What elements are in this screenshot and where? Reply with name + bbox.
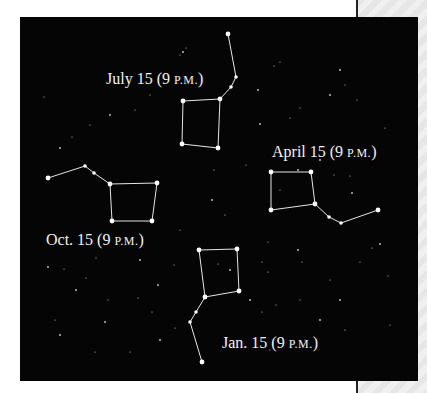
constellation-line-oct (48, 166, 85, 178)
background-star-icon (297, 249, 299, 251)
constellation-line-jan (199, 250, 205, 297)
background-star-icon (333, 174, 334, 175)
background-star-icon (134, 109, 135, 110)
background-star-icon (289, 117, 290, 118)
background-star-icon (85, 277, 86, 278)
label-date: April 15 (272, 143, 326, 160)
background-star-icon (224, 214, 225, 215)
background-star-icon (273, 65, 274, 66)
star-icon-july (234, 75, 238, 79)
background-star-icon (174, 327, 175, 328)
background-star-icon (329, 94, 331, 96)
background-star-icon (43, 96, 44, 97)
star-icon-july (180, 142, 185, 147)
background-stars (43, 47, 390, 352)
background-star-icon (213, 169, 214, 170)
background-star-icon (259, 123, 261, 125)
star-icon-oct (92, 171, 96, 175)
background-star-icon (109, 114, 111, 116)
star-icon-oct (155, 181, 160, 186)
label-time-close: ) (198, 70, 203, 87)
background-star-icon (379, 243, 381, 245)
label-time-close: ) (313, 334, 318, 351)
background-star-icon (217, 263, 218, 264)
background-star-icon (179, 54, 180, 55)
background-star-icon (279, 61, 280, 62)
background-star-icon (344, 329, 345, 330)
background-star-icon (261, 261, 262, 262)
label-oct: Oct. 15 (9 P.M.) (46, 231, 144, 249)
background-star-icon (297, 169, 299, 171)
label-time-open: (9 (271, 334, 288, 351)
background-star-icon (279, 189, 280, 190)
background-star-icon (137, 297, 138, 298)
label-jan: Jan. 15 (9 P.M.) (222, 334, 318, 352)
background-star-icon (47, 266, 49, 268)
background-star-icon (104, 321, 106, 323)
constellation-line-july (182, 101, 183, 144)
background-star-icon (151, 311, 152, 312)
star-icon-april (269, 170, 274, 175)
label-time-pm: P.M. (174, 73, 198, 87)
constellation-line-jan (196, 297, 205, 312)
constellation-stars (46, 32, 381, 365)
star-icon-oct (110, 219, 115, 224)
label-time-open: (9 (330, 143, 347, 160)
label-april: April 15 (9 P.M.) (272, 143, 376, 161)
star-icon-jan (200, 360, 205, 365)
star-icon-april (309, 170, 314, 175)
background-star-icon (229, 269, 231, 271)
constellation-line-jan (190, 322, 202, 362)
background-star-icon (384, 127, 385, 128)
label-time-open: (9 (157, 70, 174, 87)
constellation-line-april (311, 172, 315, 204)
background-star-icon (339, 299, 341, 301)
background-star-icon (59, 147, 61, 149)
constellation-layer (0, 0, 427, 393)
background-star-icon (261, 311, 262, 312)
constellation-line-oct (110, 183, 157, 184)
constellation-line-jan (199, 249, 237, 250)
background-star-icon (63, 268, 64, 269)
star-icon-april (269, 208, 274, 213)
background-star-icon (149, 94, 150, 95)
star-icon-oct (108, 182, 113, 187)
star-icon-jan (194, 310, 198, 314)
constellation-line-july (183, 99, 220, 101)
label-time-pm: P.M. (114, 234, 138, 248)
background-star-icon (182, 51, 184, 53)
constellation-line-april (271, 204, 315, 210)
constellation-line-oct (110, 184, 112, 221)
constellation-line-april (341, 210, 378, 223)
background-star-icon (54, 319, 55, 320)
label-time-close: ) (138, 231, 143, 248)
constellation-line-april (315, 204, 329, 217)
background-star-icon (173, 264, 174, 265)
background-star-icon (267, 241, 268, 242)
star-icon-april (376, 208, 381, 213)
constellation-line-oct (152, 183, 157, 221)
constellation-line-jan (205, 291, 239, 297)
background-star-icon (359, 261, 360, 262)
label-date: July 15 (106, 70, 153, 87)
star-icon-july (226, 32, 231, 37)
star-icon-jan (188, 320, 192, 324)
star-icon-july (216, 146, 221, 151)
label-date: Jan. 15 (222, 334, 267, 351)
star-icon-april (313, 202, 318, 207)
background-star-icon (299, 299, 300, 300)
background-star-icon (387, 275, 388, 276)
star-icon-april (339, 221, 343, 225)
background-star-icon (159, 339, 161, 341)
background-star-icon (344, 84, 345, 85)
background-star-icon (107, 299, 108, 300)
background-star-icon (71, 136, 72, 137)
label-time-pm: P.M. (289, 337, 313, 351)
star-icon-jan (237, 289, 242, 294)
background-star-icon (275, 304, 276, 305)
star-icon-july (229, 85, 233, 89)
star-icon-april (327, 215, 331, 219)
background-star-icon (389, 324, 390, 325)
label-time-open: (9 (97, 231, 114, 248)
background-star-icon (179, 229, 180, 230)
